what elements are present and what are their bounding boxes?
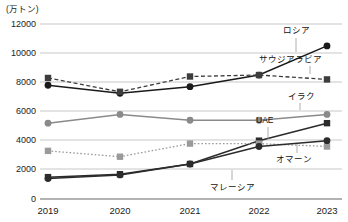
data-point-circle (187, 161, 194, 168)
series-label-malaysia: マレーシア (210, 182, 255, 192)
x-tick-2021: 2021 (179, 205, 200, 216)
data-point-square (324, 120, 330, 126)
data-point-square (117, 154, 123, 160)
data-point-square (187, 140, 193, 146)
data-point-square (324, 143, 330, 149)
data-point-circle (45, 120, 52, 127)
data-point-circle (117, 172, 124, 179)
x-axis-tick-labels: 2019 2020 2021 2022 2023 (37, 205, 337, 216)
data-point-square (45, 148, 51, 154)
series-label-oman: オマーン (276, 154, 312, 164)
data-point-circle (45, 175, 52, 182)
y-axis-tick-labels: 12000 10000 8000 6000 4000 2000 0 (11, 19, 36, 204)
y-tick-4000: 4000 (16, 135, 36, 145)
data-point-square (324, 76, 330, 82)
y-tick-8000: 8000 (16, 77, 36, 87)
data-point-square (45, 75, 51, 81)
data-point-circle (187, 83, 194, 90)
y-tick-2000: 2000 (16, 164, 36, 174)
data-point-square (256, 72, 262, 78)
y-axis-gridlines (40, 24, 342, 199)
series-label-uae: UAE (256, 115, 274, 125)
line-chart: 12000 10000 8000 6000 4000 2000 0 (万トン) … (0, 0, 348, 222)
series-1 (45, 42, 331, 96)
x-tick-2020: 2020 (109, 205, 130, 216)
y-tick-10000: 10000 (11, 48, 36, 58)
data-point-circle (324, 42, 331, 49)
data-point-circle (324, 137, 331, 144)
x-tick-2022: 2022 (248, 205, 269, 216)
y-tick-12000: 12000 (11, 19, 36, 29)
data-point-circle (187, 117, 194, 124)
x-tick-2019: 2019 (37, 205, 58, 216)
data-point-circle (256, 143, 263, 150)
series-annotations: ロシア サウジアラビア イラク UAE オマーン マレーシア (210, 25, 322, 192)
data-point-circle (324, 111, 331, 118)
data-point-circle (117, 111, 124, 118)
data-point-square (117, 89, 123, 95)
series-4 (45, 120, 330, 180)
series-label-saudi: サウジアラビア (259, 54, 322, 64)
y-tick-0: 0 (31, 194, 36, 204)
data-point-circle (45, 82, 52, 89)
series-label-russia: ロシア (283, 25, 310, 35)
y-tick-6000: 6000 (16, 106, 36, 116)
x-tick-2023: 2023 (316, 205, 337, 216)
series-label-iraq: イラク (288, 91, 315, 101)
data-point-square (187, 73, 193, 79)
series-3 (45, 111, 331, 127)
y-axis-unit-label: (万トン) (6, 4, 39, 14)
